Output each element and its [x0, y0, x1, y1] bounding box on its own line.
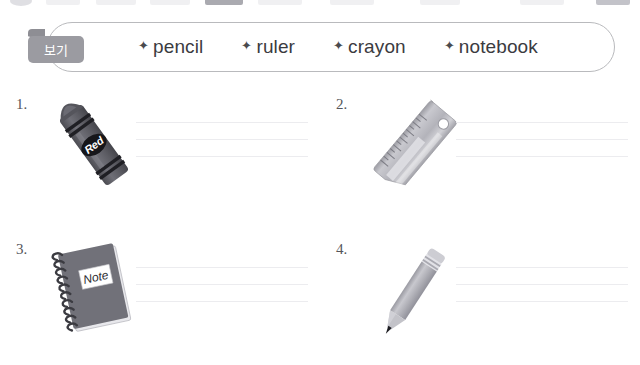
answer-line	[136, 139, 308, 140]
tag-label: 보기	[44, 40, 69, 59]
sparkle-icon: ✦	[241, 38, 252, 53]
word-bank-tag: 보기	[28, 29, 84, 63]
cropped-top-row	[0, 0, 640, 9]
answer-line	[456, 139, 628, 140]
answer-line	[456, 267, 628, 268]
answer-line	[136, 156, 308, 157]
word-bank-item-label: crayon	[348, 36, 406, 58]
question-number: 1.	[16, 96, 27, 113]
word-bank-item-notebook[interactable]: ✦ notebook	[444, 36, 538, 58]
question-illustration-notebook: Note	[42, 235, 147, 345]
answer-line	[456, 284, 628, 285]
sparkle-icon: ✦	[138, 38, 149, 53]
answer-lines[interactable]	[456, 114, 628, 174]
question-illustration-pencil	[362, 235, 467, 345]
word-bank-item-ruler[interactable]: ✦ ruler	[241, 36, 295, 58]
answer-line	[456, 122, 628, 123]
answer-lines[interactable]	[136, 259, 308, 319]
word-bank-item-pencil[interactable]: ✦ pencil	[138, 36, 203, 58]
answer-line	[136, 301, 308, 302]
word-bank-item-label: notebook	[459, 36, 538, 58]
answer-line	[136, 284, 308, 285]
answer-line	[456, 301, 628, 302]
answer-lines[interactable]	[136, 114, 308, 174]
word-bank-item-label: ruler	[256, 36, 295, 58]
question-number: 4.	[336, 241, 347, 258]
answer-line	[136, 122, 308, 123]
question-item-1: 1.	[0, 88, 320, 225]
answer-line	[456, 156, 628, 157]
word-bank: ✦ pencil ✦ ruler ✦ crayon ✦ notebook	[47, 22, 615, 72]
question-item-3: 3.	[0, 233, 320, 365]
answer-lines[interactable]	[456, 259, 628, 319]
word-bank-item-crayon[interactable]: ✦ crayon	[333, 36, 406, 58]
sparkle-icon: ✦	[333, 38, 344, 53]
tag-body: 보기	[28, 36, 84, 63]
question-illustration-ruler	[362, 90, 467, 200]
question-number: 2.	[336, 96, 347, 113]
question-item-2: 2.	[320, 88, 640, 225]
question-illustration-crayon: Red	[42, 90, 147, 200]
word-bank-item-label: pencil	[153, 36, 203, 58]
question-number: 3.	[16, 241, 27, 258]
question-grid: 1.	[0, 88, 640, 363]
sparkle-icon: ✦	[444, 38, 455, 53]
answer-line	[136, 267, 308, 268]
word-bank-list: ✦ pencil ✦ ruler ✦ crayon ✦ notebook	[138, 23, 596, 71]
question-item-4: 4.	[320, 233, 640, 365]
